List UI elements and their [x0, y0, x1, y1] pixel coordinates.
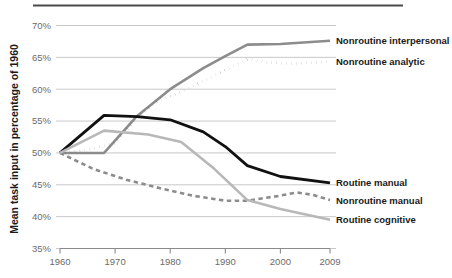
chart-container: 35%40%45%50%55%60%65%70% 196019701980199…: [0, 0, 452, 278]
x-tick-label: 1980: [160, 256, 181, 267]
y-tick-label: 65%: [32, 52, 52, 63]
y-tick-label: 55%: [32, 115, 52, 126]
series-label-nonroutine-analytic: Nonroutine analytic: [336, 56, 425, 67]
y-tick-label: 60%: [32, 84, 52, 95]
y-tick-label: 50%: [32, 147, 52, 158]
series-label-routine-manual: Routine manual: [336, 177, 407, 188]
y-tick-label: 35%: [32, 243, 52, 254]
x-tick-label: 2000: [270, 256, 291, 267]
series-label-routine-cognitive: Routine cognitive: [336, 214, 416, 225]
x-tick-label: 1960: [49, 256, 70, 267]
y-tick-label: 45%: [32, 179, 52, 190]
series-label-nonroutine-manual: Nonroutine manual: [336, 195, 423, 206]
y-axis-title: Mean task input in percentage of 1960: [8, 44, 20, 234]
x-tick-label: 1990: [215, 256, 236, 267]
y-tick-label: 70%: [32, 20, 52, 31]
series-label-nonroutine-interpersonal: Nonroutine interpersonal: [336, 35, 449, 46]
line-chart: 35%40%45%50%55%60%65%70% 196019701980199…: [0, 0, 452, 278]
x-tick-label: 1970: [105, 256, 126, 267]
x-tick-label: 2009: [319, 256, 340, 267]
y-tick-label: 40%: [32, 211, 52, 222]
